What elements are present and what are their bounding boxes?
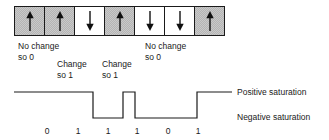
bit-label: 1 xyxy=(72,126,84,136)
bit-label: 1 xyxy=(192,126,204,136)
negative-saturation-label: Negative saturation xyxy=(237,112,310,122)
bit-label: 0 xyxy=(41,126,53,136)
figure-canvas: No change so 0 Change so 1 Change so 1 N… xyxy=(0,0,329,140)
bit-label: 1 xyxy=(102,126,114,136)
waveform-trace xyxy=(14,92,232,118)
positive-saturation-label: Positive saturation xyxy=(237,87,306,97)
bit-label: 0 xyxy=(162,126,174,136)
bit-label: 1 xyxy=(131,126,143,136)
